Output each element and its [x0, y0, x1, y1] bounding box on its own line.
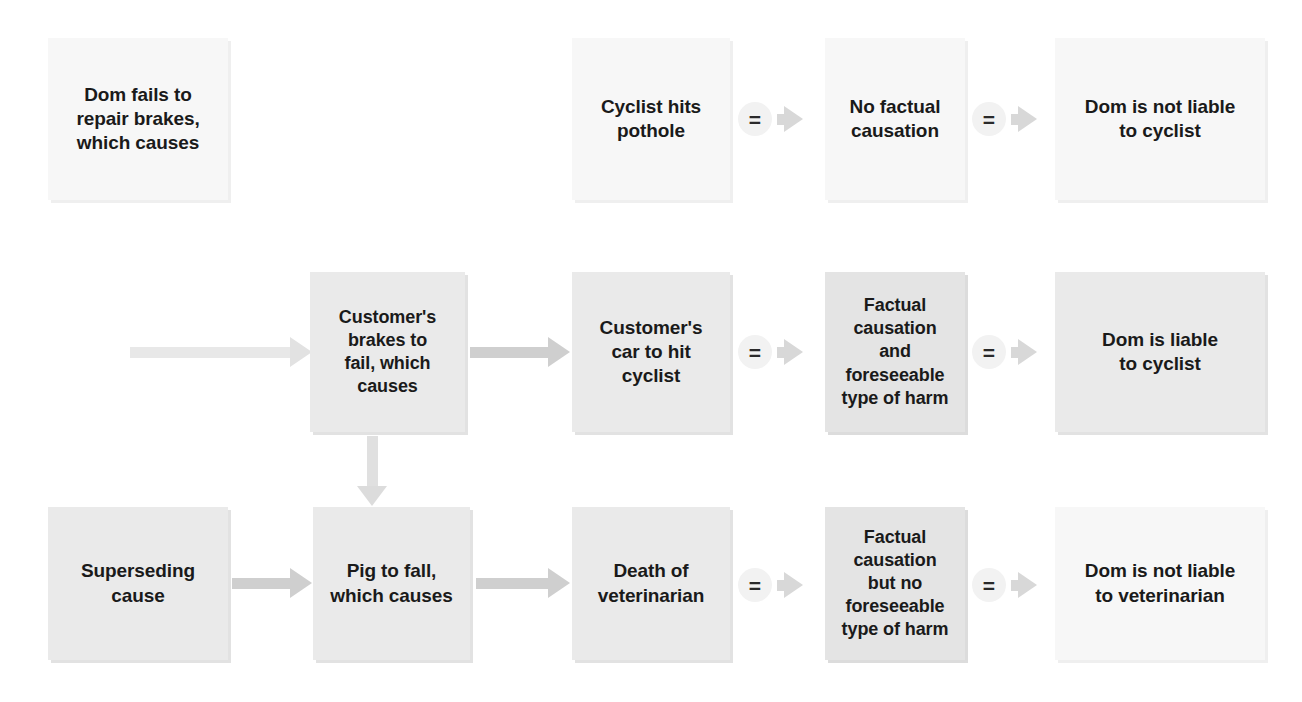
- node-dom-not-liable-to-cyclist: Dom is not liable to cyclist: [1055, 38, 1265, 200]
- arrow-head-icon: [784, 339, 803, 365]
- equals-icon: =: [738, 335, 772, 369]
- equals-connector-2: =: [972, 102, 1037, 136]
- node-cyclist-hits-pothole: Cyclist hits pothole: [572, 38, 730, 200]
- equals-icon: =: [972, 568, 1006, 602]
- arrow-shaft: [777, 347, 784, 358]
- arrow-head-icon: [548, 568, 570, 598]
- node-customers-car-to-hit-cyclist: Customer's car to hit cyclist: [572, 272, 730, 432]
- arrow-head-icon: [1018, 572, 1037, 598]
- equals-connector-6: =: [972, 568, 1037, 602]
- node-dom-liable-to-cyclist: Dom is liable to cyclist: [1055, 272, 1265, 432]
- arrow-shaft: [777, 580, 784, 591]
- arrow-pig-fall-to-death-of-vet: [476, 568, 570, 598]
- arrow-head-icon: [1018, 106, 1037, 132]
- arrow-shaft: [476, 578, 548, 589]
- arrow-head-icon: [1018, 339, 1037, 365]
- arrow-shaft: [1011, 580, 1018, 591]
- arrow-head-icon: [548, 337, 570, 367]
- node-factual-causation-but-no-foreseeable: Factual causation but no foreseeable typ…: [825, 507, 965, 660]
- arrow-dom-fails-to-customers-brakes: [130, 337, 312, 367]
- node-no-factual-causation: No factual causation: [825, 38, 965, 200]
- arrow-shaft: [1011, 114, 1018, 125]
- equals-icon: =: [972, 335, 1006, 369]
- arrow-head-icon: [290, 568, 312, 598]
- arrow-head-icon: [357, 486, 387, 506]
- equals-connector-5: =: [738, 568, 803, 602]
- arrow-head-icon: [290, 337, 312, 367]
- arrow-shaft: [470, 347, 548, 358]
- node-factual-causation-and-foreseeable: Factual causation and foreseeable type o…: [825, 272, 965, 432]
- equals-connector-1: =: [738, 102, 803, 136]
- arrow-brakes-to-car-hit-cyclist: [470, 337, 570, 367]
- arrow-superseding-to-pig-fall: [232, 568, 312, 598]
- equals-icon: =: [972, 102, 1006, 136]
- node-superseding-cause: Superseding cause: [48, 507, 228, 660]
- equals-icon: =: [738, 102, 772, 136]
- node-death-of-veterinarian: Death of veterinarian: [572, 507, 730, 660]
- equals-icon: =: [738, 568, 772, 602]
- arrow-shaft: [367, 436, 378, 486]
- node-dom-fails-to-repair-brakes: Dom fails to repair brakes, which causes: [48, 38, 228, 200]
- arrow-head-icon: [784, 572, 803, 598]
- equals-connector-4: =: [972, 335, 1037, 369]
- node-dom-not-liable-to-veterinarian: Dom is not liable to veterinarian: [1055, 507, 1265, 660]
- equals-connector-3: =: [738, 335, 803, 369]
- arrow-shaft: [1011, 347, 1018, 358]
- flowchart-canvas: Dom fails to repair brakes, which causes…: [0, 0, 1302, 702]
- arrow-shaft: [130, 347, 290, 358]
- arrow-shaft: [232, 578, 290, 589]
- arrow-head-icon: [784, 106, 803, 132]
- node-customers-brakes-to-fail: Customer's brakes to fail, which causes: [310, 272, 465, 432]
- arrow-shaft: [777, 114, 784, 125]
- node-pig-to-fall: Pig to fall, which causes: [313, 507, 470, 660]
- arrow-brakes-to-pig-fall: [357, 436, 387, 506]
